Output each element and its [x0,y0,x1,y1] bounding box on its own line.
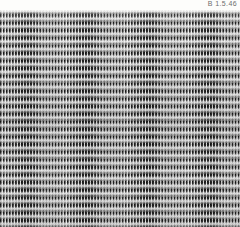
caption-strip: B 1.5.46 [0,0,240,10]
scanned-plate-page: B 1.5.46 [0,0,240,227]
plate-label: B 1.5.46 [208,0,237,8]
woven-texture-field [0,10,240,227]
texture-horizontal-band-layer [0,10,240,227]
